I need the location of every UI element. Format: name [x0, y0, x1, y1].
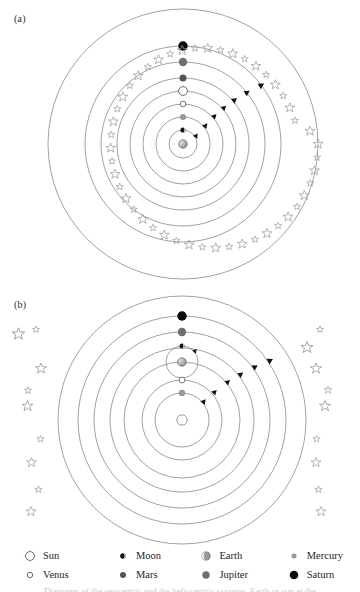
body-sun: [179, 87, 188, 96]
moon-icon: [115, 548, 131, 564]
legend-item-earth: Earth: [196, 546, 281, 565]
body-venus: [180, 101, 186, 107]
legend-label-venus: Venus: [43, 569, 69, 580]
arrow-moon: [193, 132, 200, 139]
legend-label-earth: Earth: [219, 550, 242, 561]
arrow-venus: [211, 112, 219, 119]
arrow-saturn-b: [266, 356, 274, 364]
legend-row-1: Sun Moon Earth: [0, 546, 360, 565]
arrow-sun: [221, 104, 228, 112]
legend-label-saturn: Saturn: [307, 569, 334, 580]
panel-b-bodies: [177, 311, 187, 425]
panel-label-b: (b): [14, 299, 26, 310]
legend-item-mars: Mars: [109, 565, 197, 584]
legend-item-moon: Moon: [109, 546, 197, 565]
body-mercury-b: [179, 390, 185, 396]
body-jupiter-b: [178, 328, 186, 336]
legend-item-jupiter: Jupiter: [196, 565, 281, 584]
body-sun-b: [177, 415, 187, 425]
body-venus-b: [179, 377, 185, 383]
saturn-icon: [286, 567, 302, 583]
panel-b-star-field-right: [301, 326, 332, 516]
earth-icon: [198, 548, 214, 564]
legend-label-moon: Moon: [136, 550, 161, 561]
legend-label-mars: Mars: [136, 569, 158, 580]
arrow-mercury: [202, 122, 210, 129]
panel-label-a: (a): [14, 13, 26, 24]
arrow-mars: [231, 96, 239, 104]
mercury-icon: [286, 548, 302, 564]
legend-label-sun: Sun: [43, 550, 59, 561]
body-jupiter: [179, 58, 187, 66]
cosmology-diagram: [0, 0, 360, 592]
body-earth-b: [178, 358, 187, 367]
jupiter-icon: [198, 567, 214, 583]
legend-row-2: Venus Mars Jupiter: [0, 565, 360, 584]
sun-icon: [22, 548, 38, 564]
legend-item-saturn: Saturn: [282, 565, 360, 584]
mars-icon: [115, 567, 131, 583]
panel-a-star-ring: [106, 43, 323, 252]
arrow-moon-b: [192, 347, 198, 353]
body-mercury: [180, 114, 185, 119]
panel-b-star-field-left: [12, 326, 46, 516]
legend-item-venus: Venus: [0, 565, 109, 584]
legend-item-mercury: Mercury: [282, 546, 360, 565]
legend-label-jupiter: Jupiter: [219, 569, 248, 580]
legend: Sun Moon Earth: [0, 546, 360, 586]
figure-container: (a) (b): [0, 0, 360, 592]
arrow-jupiter: [244, 88, 252, 96]
panel-a-geocentric: [48, 9, 323, 279]
legend-label-mercury: Mercury: [307, 550, 343, 561]
arrow-mars-b: [237, 370, 245, 378]
figure-caption-fragment: Diagrams of the geocentric and the helio…: [0, 586, 360, 592]
legend-item-sun: Sun: [0, 546, 109, 565]
body-mars: [180, 75, 187, 82]
venus-icon: [22, 567, 38, 583]
panel-a-bodies: [177, 41, 190, 148]
body-saturn-b: [177, 311, 186, 320]
arrow-mercury-b: [200, 397, 208, 404]
arrow-jupiter-b: [252, 363, 260, 371]
arrow-earth-b: [224, 378, 231, 386]
body-earth: [179, 140, 188, 149]
panel-b-heliocentric: [12, 296, 331, 544]
panel-b-direction-arrows: [192, 347, 274, 405]
